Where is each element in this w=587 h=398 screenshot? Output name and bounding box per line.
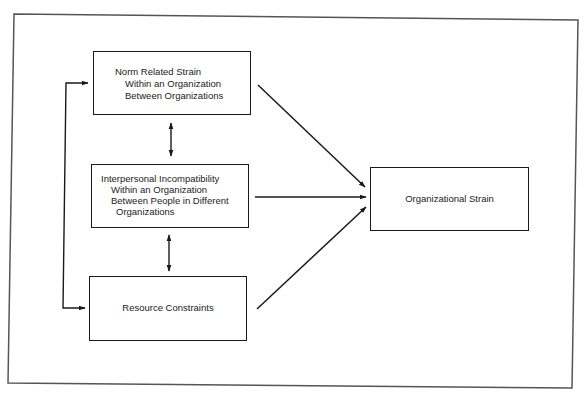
left-bracket-connector <box>63 83 88 308</box>
node-title: Interpersonal Incompatibility <box>101 173 219 184</box>
node-subitem: Between Organizations <box>125 90 223 101</box>
node-title: Norm Related Strain <box>115 66 201 77</box>
node-subitem: Between People in Different <box>111 195 229 206</box>
node-interpersonal-incompatibility: Interpersonal Incompatibility Within an … <box>91 164 249 228</box>
node-subitem: Organizations <box>116 206 175 217</box>
arrow-resource-to-org-strain <box>257 207 366 309</box>
node-title: Organizational Strain <box>371 193 528 204</box>
node-title: Resource Constraints <box>90 302 246 313</box>
node-organizational-strain: Organizational Strain <box>370 167 529 231</box>
arrow-norm-to-org-strain <box>258 85 365 187</box>
node-resource-constraints: Resource Constraints <box>89 276 247 341</box>
node-norm-related-strain: Norm Related Strain Within an Organizati… <box>93 51 251 115</box>
node-subitem: Within an Organization <box>125 78 221 89</box>
node-subitem: Within an Organization <box>111 184 207 195</box>
